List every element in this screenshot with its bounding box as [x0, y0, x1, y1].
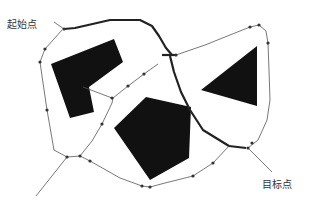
waypoint-node	[211, 161, 214, 164]
waypoint-node	[88, 159, 91, 162]
obstacle-pentagon	[114, 97, 191, 180]
waypoint-node	[126, 84, 129, 87]
waypoint-node	[78, 154, 81, 157]
waypoint-node	[43, 47, 46, 50]
waypoint-node	[142, 72, 145, 75]
waypoint-node	[140, 184, 143, 187]
waypoint-node	[100, 122, 103, 125]
waypoint-node	[62, 27, 65, 30]
waypoint-node	[38, 60, 41, 63]
waypoint-node	[65, 155, 68, 158]
edge-start-leader	[54, 22, 64, 29]
start-point-label: 起始点	[7, 16, 37, 31]
waypoint-node	[257, 23, 260, 26]
path-planning-diagram	[0, 0, 312, 203]
path-goal-join	[229, 146, 246, 148]
goal-point-label: 目标点	[262, 176, 292, 191]
obstacles-group	[51, 39, 257, 180]
edge-goal-leader	[248, 148, 272, 172]
waypoint-node	[248, 25, 251, 28]
waypoint-node	[191, 174, 194, 177]
obstacle-l-shape	[51, 39, 123, 118]
waypoint-node	[266, 41, 269, 44]
waypoint-node	[45, 108, 48, 111]
waypoint-node	[148, 185, 151, 188]
waypoint-node	[246, 146, 249, 149]
waypoint-node	[250, 141, 253, 144]
edge-left-junction-down	[36, 157, 67, 196]
waypoint-node	[110, 96, 113, 99]
edge-inner-diag-right	[113, 64, 158, 98]
edge-left-junction-right	[67, 156, 80, 157]
edge-top-right	[176, 25, 259, 55]
obstacle-triangle	[201, 46, 257, 106]
waypoint-node	[174, 53, 177, 56]
